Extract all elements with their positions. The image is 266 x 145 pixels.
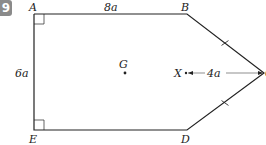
label-d: D [180, 133, 190, 145]
label-g: G [119, 58, 128, 71]
label-c: C [265, 67, 266, 80]
right-angle-marker-a [34, 14, 44, 24]
dimension-xc: 4a [206, 67, 221, 80]
arrowhead-left-icon [188, 71, 193, 75]
point-g [124, 72, 127, 75]
label-a: A [28, 1, 37, 14]
label-b: B [180, 1, 189, 14]
point-x [185, 72, 187, 74]
label-e: E [28, 133, 37, 145]
shape-outline [34, 14, 264, 130]
right-angle-marker-e [34, 120, 44, 130]
dimension-ae: 6a [15, 67, 29, 80]
label-x: X [173, 67, 183, 80]
dimension-ab: 8a [104, 1, 118, 14]
pentagon-diagram: A B C D E G X 8a 6a 4a [0, 0, 266, 145]
